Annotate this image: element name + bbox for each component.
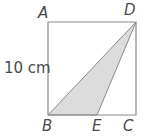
vertex-label-c: C bbox=[123, 119, 133, 134]
geometry-figure: A D B E C 10 cm bbox=[0, 0, 144, 138]
vertex-label-b: B bbox=[42, 119, 52, 134]
vertex-label-e: E bbox=[92, 119, 101, 134]
shaded-triangle-bed bbox=[48, 22, 136, 115]
vertex-label-d: D bbox=[124, 3, 136, 18]
vertex-label-a: A bbox=[38, 6, 48, 21]
side-length-label: 10 cm bbox=[4, 61, 51, 76]
